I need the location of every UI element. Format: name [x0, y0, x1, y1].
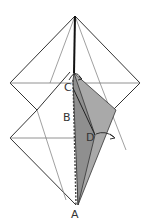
label-c: C [64, 81, 72, 94]
label-b: B [63, 111, 71, 124]
center-fold [74, 16, 75, 73]
label-a: A [71, 208, 79, 221]
origami-diagram: C B D A [0, 0, 148, 224]
arrow-head-d [110, 134, 115, 139]
label-d: D [86, 131, 94, 144]
